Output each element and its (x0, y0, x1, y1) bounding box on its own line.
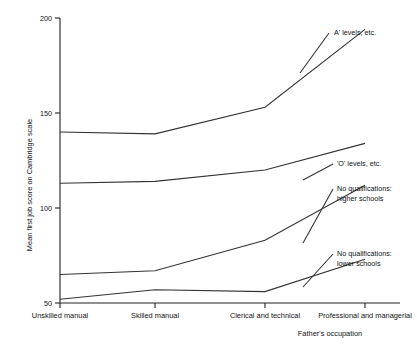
series-line-noqual-higher (60, 185, 365, 274)
series-line-noqual-lower (60, 259, 365, 299)
series-line-a-levels (60, 29, 365, 133)
chart-canvas: 200 150 100 50 Mean first job score on C… (0, 0, 417, 347)
x-label-clerical-and-technical: Clerical and technical (230, 311, 301, 320)
annotation-noqual-higher-l2: higher schools (337, 194, 384, 203)
annotation-noqual-lower-l1: No qualifications: (337, 249, 392, 258)
annotation-a-levels: A' levels, etc. (334, 28, 376, 37)
x-label-professional-and-managerial: Professional and managerial (318, 311, 412, 320)
leader-o-levels (303, 164, 333, 180)
y-tick-label-50: 50 (44, 299, 52, 308)
leader-a-levels (300, 33, 329, 73)
annotation-noqual-higher-l1: No qualifications: (337, 184, 392, 193)
y-axis-title: Mean first job score on Cambridge scale (25, 119, 34, 251)
y-tick-label-100: 100 (40, 204, 52, 213)
annotation-noqual-lower-l2: lower schools (337, 259, 381, 268)
y-tick-label-150: 150 (40, 109, 52, 118)
y-tick-label-200: 200 (40, 14, 52, 23)
leader-noqual-higher (303, 189, 333, 243)
x-label-unskilled-manual: Unskilled manual (32, 311, 89, 320)
annotation-o-levels: 'O' levels, etc. (337, 159, 381, 168)
x-label-skilled-manual: Skilled manual (131, 311, 179, 320)
line-chart: 200 150 100 50 Mean first job score on C… (0, 0, 417, 347)
x-axis-title: Father's occupation (298, 329, 362, 338)
series-line-o-levels (60, 143, 365, 183)
leader-noqual-lower (303, 254, 333, 287)
